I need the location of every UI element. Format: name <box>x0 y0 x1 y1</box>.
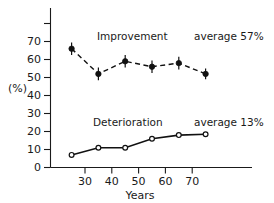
data-point <box>123 59 128 64</box>
x-tick-label-70: 70 <box>185 175 199 188</box>
series-improvement <box>69 42 208 80</box>
y-axis-title: (%) <box>8 82 27 95</box>
improvement-average-label: average 57% <box>194 30 264 42</box>
y-tick-label-0: 0 <box>34 161 41 174</box>
data-point <box>203 71 208 76</box>
y-axis-ticks <box>44 24 51 168</box>
series-deterioration-markers <box>69 132 208 158</box>
y-tick-label-60: 60 <box>27 53 41 66</box>
y-tick-label-30: 30 <box>27 107 41 120</box>
series-improvement-markers <box>69 42 208 80</box>
deterioration-series-label: Deterioration <box>93 116 163 128</box>
chart-container: 0 10 20 30 40 50 60 70 (%) 30 40 50 60 7… <box>0 0 274 203</box>
data-point <box>149 64 154 69</box>
data-point <box>150 136 155 141</box>
data-point <box>123 145 128 150</box>
line-chart: 0 10 20 30 40 50 60 70 (%) 30 40 50 60 7… <box>0 0 274 203</box>
x-tick-label-50: 50 <box>132 175 146 188</box>
series-deterioration <box>69 132 208 158</box>
data-point <box>176 133 181 138</box>
data-point <box>69 153 74 158</box>
series-deterioration-line <box>72 134 206 155</box>
y-tick-label-10: 10 <box>27 143 41 156</box>
x-tick-label-60: 60 <box>158 175 172 188</box>
data-point <box>69 46 74 51</box>
x-tick-label-30: 30 <box>78 175 92 188</box>
y-tick-label-70: 70 <box>27 35 41 48</box>
data-point <box>203 132 208 137</box>
x-axis-title: Years <box>124 189 154 202</box>
y-tick-label-20: 20 <box>27 125 41 138</box>
deterioration-average-label: average 13% <box>194 116 264 128</box>
data-point <box>96 145 101 150</box>
data-point <box>96 71 101 76</box>
x-axis-ticks <box>85 168 192 174</box>
y-tick-label-50: 50 <box>27 71 41 84</box>
x-tick-label-40: 40 <box>105 175 119 188</box>
improvement-series-label: Improvement <box>97 30 168 42</box>
data-point <box>176 60 181 65</box>
y-tick-label-40: 40 <box>27 89 41 102</box>
series-improvement-line <box>72 49 206 74</box>
